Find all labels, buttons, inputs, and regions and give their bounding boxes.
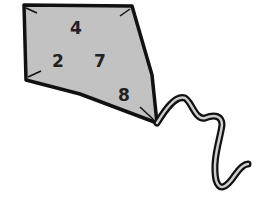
kite-number: 2 — [52, 53, 64, 70]
kite-body — [24, 5, 157, 123]
kite-number: 4 — [70, 20, 82, 37]
kite-tail — [157, 98, 248, 187]
kite-drawing — [0, 0, 264, 198]
kite-number: 8 — [118, 87, 130, 104]
kite-number: 7 — [94, 53, 106, 70]
